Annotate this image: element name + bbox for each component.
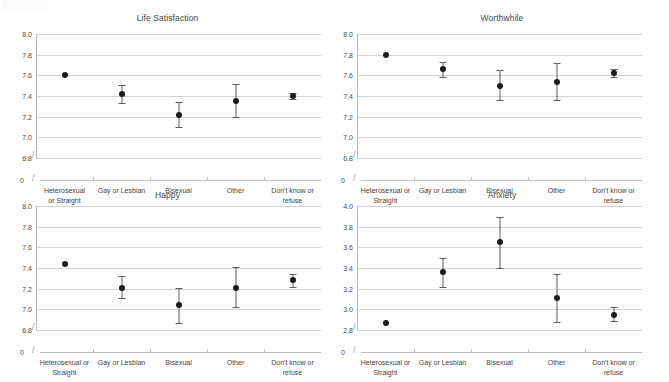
data-point (383, 52, 389, 58)
error-bar-cap (610, 321, 617, 322)
x-axis-tick (414, 177, 415, 180)
gridline (36, 158, 321, 159)
y-axis-zero-label: 0 (341, 349, 345, 356)
x-axis-tick (207, 349, 208, 352)
data-point (383, 320, 389, 326)
gridline (36, 330, 321, 331)
axis-break-icon: / (32, 323, 35, 332)
y-axis-zero-label: 0 (20, 177, 24, 184)
chart-panel-life_satisfaction: Life Satisfaction8.07.87.67.47.27.06.8//… (0, 0, 335, 191)
gridline (36, 75, 321, 76)
x-axis-tick (585, 177, 586, 180)
error-bar-cap (118, 298, 125, 299)
y-axis-tick-label: 8.0 (22, 203, 32, 210)
error-bar-cap (553, 100, 560, 101)
y-axis-line (36, 206, 37, 330)
y-axis-tick-label: 2.8 (343, 327, 353, 334)
error-bar-cap (175, 323, 182, 324)
axis-break-icon: / (353, 151, 356, 160)
gridline (357, 158, 642, 159)
error-bar-cap (118, 85, 125, 86)
y-axis-tick-label: 7.0 (343, 134, 353, 141)
y-axis-zero-label: 0 (20, 349, 24, 356)
chart-panel-happy: Happy8.07.87.67.47.27.06.8//0Heterosexua… (0, 191, 335, 382)
y-axis-tick-label: 7.4 (343, 93, 353, 100)
chart-panel-anxiety: Anxiety4.03.83.63.43.23.02.8//0Heterosex… (335, 191, 669, 382)
y-axis-tick-label: 3.4 (343, 265, 353, 272)
error-bar-cap (232, 307, 239, 308)
error-bar-cap (232, 117, 239, 118)
x-axis-tick (585, 349, 586, 352)
error-bar-cap (175, 288, 182, 289)
y-axis-tick-label: 7.0 (22, 134, 32, 141)
axis-break-icon-zero: / (32, 346, 35, 355)
data-point (119, 285, 125, 291)
data-point (554, 295, 560, 301)
data-point (176, 112, 182, 118)
y-axis-tick-label: 3.0 (343, 306, 353, 313)
axis-break-icon: / (353, 323, 356, 332)
x-axis-tick (93, 349, 94, 352)
chart-title-anxiety: Anxiety (335, 190, 669, 200)
error-bar-cap (553, 63, 560, 64)
y-axis-tick-label: 7.6 (22, 72, 32, 79)
error-bar-cap (496, 100, 503, 101)
y-axis-tick-label: 6.8 (22, 327, 32, 334)
x-axis-line (361, 180, 642, 181)
data-point (611, 70, 617, 76)
error-bar-cap (289, 99, 296, 100)
error-bar-cap (232, 267, 239, 268)
y-axis-tick-label: 3.2 (343, 285, 353, 292)
plot-area-life_satisfaction: 8.07.87.67.47.27.06.8 (36, 34, 321, 158)
y-axis-tick-label: 3.8 (343, 223, 353, 230)
x-axis-tick (414, 349, 415, 352)
data-point (440, 269, 446, 275)
x-axis-category-label: Don't know or refuse (577, 358, 651, 377)
error-bar-cap (439, 77, 446, 78)
axis-break-icon-zero: / (32, 174, 35, 183)
y-axis-tick-label: 7.4 (22, 93, 32, 100)
y-axis-tick-label: 7.8 (22, 51, 32, 58)
x-axis-line (361, 352, 642, 353)
y-axis-tick-label: 8.0 (343, 31, 353, 38)
y-axis-tick-label: 6.8 (343, 155, 353, 162)
data-point (290, 277, 296, 283)
y-axis-tick-label: 4.0 (343, 203, 353, 210)
error-bar-cap (439, 287, 446, 288)
error-bar-cap (118, 103, 125, 104)
axis-break-icon: / (32, 151, 35, 160)
error-bar-cap (610, 77, 617, 78)
data-point (440, 66, 446, 72)
axis-break-icon-zero: / (353, 346, 356, 355)
y-axis-tick-label: 7.8 (22, 223, 32, 230)
plot-area-anxiety: 4.03.83.63.43.23.02.8 (357, 206, 642, 330)
gridline (357, 289, 642, 290)
chart-title-worthwhile: Worthwhile (335, 13, 669, 23)
y-axis-tick-label: 6.8 (22, 155, 32, 162)
data-point (497, 83, 503, 89)
error-bar-cap (496, 217, 503, 218)
data-point (233, 98, 239, 104)
x-axis-tick (207, 177, 208, 180)
y-axis-tick-label: 7.6 (343, 72, 353, 79)
gridline (357, 55, 642, 56)
data-point (611, 312, 617, 318)
chart-title-happy: Happy (0, 190, 335, 200)
x-axis-tick (264, 349, 265, 352)
error-bar-cap (289, 274, 296, 275)
error-bar-cap (496, 268, 503, 269)
y-axis-tick-label: 7.4 (22, 265, 32, 272)
axis-break-icon-zero: / (353, 174, 356, 183)
data-point (176, 302, 182, 308)
y-axis-tick-label: 7.2 (22, 113, 32, 120)
figure-canvas: Life Satisfaction8.07.87.67.47.27.06.8//… (0, 0, 669, 382)
gridline (36, 137, 321, 138)
gridline (357, 309, 642, 310)
error-bar-cap (118, 276, 125, 277)
data-point (233, 285, 239, 291)
plot-area-worthwhile: 8.07.87.67.47.27.06.8 (357, 34, 642, 158)
gridline (357, 117, 642, 118)
y-axis-tick-label: 7.2 (343, 113, 353, 120)
data-point (119, 91, 125, 97)
gridline (357, 137, 642, 138)
